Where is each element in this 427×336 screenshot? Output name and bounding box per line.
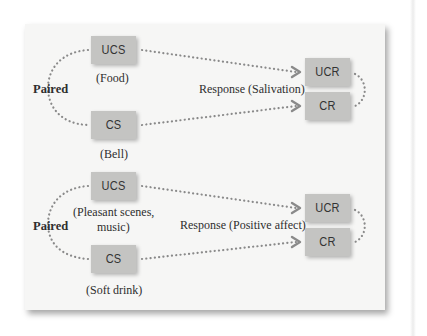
ucr-cr-arc-2 (355, 210, 365, 242)
cs-cr-link-1 (142, 106, 296, 125)
ucs-caption-1: (Food) (96, 71, 129, 85)
dotted-connectors (0, 0, 427, 336)
ucr-label: UCR (315, 201, 339, 215)
ucs-label: UCS (102, 179, 126, 193)
cr-box-1: CR (305, 92, 350, 120)
ucr-cr-arc-1 (355, 74, 365, 106)
ucr-box-1: UCR (305, 58, 350, 86)
ucs-caption-2-line2: music) (97, 220, 130, 234)
cs-label: CS (106, 118, 122, 132)
cs-box-2: CS (91, 245, 136, 273)
response-label-1: Response (Salivation) (199, 82, 305, 96)
cr-box-2: CR (305, 228, 350, 256)
ucs-label: UCS (102, 43, 126, 57)
ucr-box-2: UCR (305, 194, 350, 222)
ucs-box-1: UCS (91, 36, 136, 64)
ucr-label: UCR (315, 65, 339, 79)
paired-label-2: Paired (33, 219, 68, 233)
response-label-2: Response (Positive affect) (180, 218, 306, 232)
ucs-caption-2-line1: (Pleasant scenes, (73, 205, 154, 219)
ucs-ucr-link-1 (142, 50, 296, 72)
cs-cr-link-2 (142, 242, 296, 259)
cs-box-1: CS (91, 111, 136, 139)
cs-caption-1: (Bell) (100, 147, 128, 161)
cs-caption-2: (Soft drink) (86, 283, 142, 297)
cs-label: CS (106, 252, 122, 266)
cr-label: CR (319, 235, 335, 249)
ucs-ucr-link-2 (142, 186, 296, 208)
paired-label-1: Paired (33, 82, 68, 96)
ucs-box-2: UCS (91, 172, 136, 200)
cr-label: CR (319, 99, 335, 113)
